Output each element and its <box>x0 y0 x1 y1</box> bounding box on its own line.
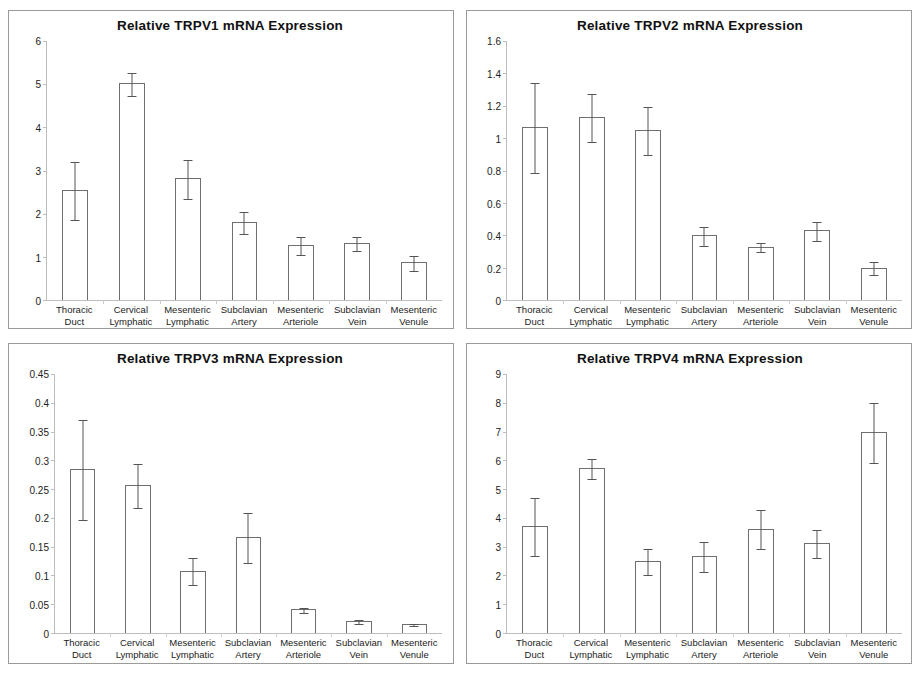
bar-slot <box>216 41 272 300</box>
y-tick-mark <box>503 518 507 519</box>
chart-panel-trpv2: Relative TRPV2 mRNA Expression 00.20.40.… <box>460 0 920 337</box>
x-tick-label: MesentericVenule <box>845 637 902 660</box>
x-tick-label: MesentericLymphatic <box>165 637 220 660</box>
plot-wrap: 0123456789 <box>468 368 912 634</box>
error-bar <box>188 160 189 199</box>
error-bar-cap-top <box>644 549 653 550</box>
error-bar-cap-top <box>410 624 419 625</box>
x-tick-label: ThoracicDuct <box>46 304 103 327</box>
error-bar-cap-bottom <box>355 624 364 625</box>
bar-slot <box>789 41 845 300</box>
error-bar-cap-bottom <box>299 613 308 614</box>
bar <box>236 537 261 633</box>
x-tick-label: MesentericLymphatic <box>159 304 216 327</box>
bar-slot <box>386 41 442 300</box>
y-tick-label: 1 <box>35 252 41 263</box>
bar-slot <box>733 41 789 300</box>
error-bar-cap-bottom <box>133 508 142 509</box>
bar <box>180 571 205 633</box>
error-bar-cap-top <box>299 608 308 609</box>
bar <box>861 268 887 300</box>
error-bar-cap-top <box>531 498 540 499</box>
x-tick-label: ThoracicDuct <box>506 304 563 327</box>
y-tick-mark <box>503 41 507 42</box>
error-bar-cap-top <box>409 256 418 257</box>
y-tick-label: 3 <box>35 166 41 177</box>
x-axis: ThoracicDuctCervicalLymphaticMesentericL… <box>8 301 452 327</box>
x-tick-label: SubclavianArtery <box>676 637 733 660</box>
bars-layer <box>507 374 902 633</box>
y-axis: 00.050.10.150.20.250.30.350.40.45 <box>12 374 54 634</box>
y-tick-mark <box>51 403 55 404</box>
chart-title: Relative TRPV2 mRNA Expression <box>468 18 912 33</box>
y-tick-mark <box>503 432 507 433</box>
y-tick-mark <box>51 547 55 548</box>
y-tick-label: 0 <box>35 296 41 307</box>
x-tick-label: SubclavianVein <box>331 637 386 660</box>
bar-slot <box>55 374 110 633</box>
error-bar-cap-bottom <box>71 220 80 221</box>
figure-panel-grid: Relative TRPV1 mRNA Expression 0123456 T… <box>0 0 920 674</box>
error-bar-cap-bottom <box>531 173 540 174</box>
y-tick-label: 0.05 <box>30 600 49 611</box>
error-bar-cap-top <box>244 513 253 514</box>
error-bar <box>591 94 592 142</box>
y-tick-mark <box>51 575 55 576</box>
x-tick-label: CervicalLymphatic <box>563 304 620 327</box>
error-bar <box>535 83 536 173</box>
x-tick-mark <box>387 633 388 637</box>
error-bar-cap-bottom <box>813 558 822 559</box>
x-tick-label: MesentericLymphatic <box>619 637 676 660</box>
x-tick-label: CervicalLymphatic <box>109 637 164 660</box>
y-tick-mark <box>43 214 47 215</box>
error-bar-cap-top <box>133 464 142 465</box>
error-bar-cap-bottom <box>531 556 540 557</box>
error-bar <box>704 227 705 246</box>
y-tick-mark <box>503 604 507 605</box>
y-tick-label: 2 <box>495 571 501 582</box>
error-bar-cap-top <box>869 262 878 263</box>
x-tick-mark <box>110 633 111 637</box>
x-tick-mark <box>221 633 222 637</box>
x-axis: ThoracicDuctCervicalLymphaticMesentericL… <box>468 634 912 660</box>
error-bar-cap-bottom <box>244 563 253 564</box>
bar <box>522 127 548 300</box>
y-axis: 0123456789 <box>472 374 506 634</box>
error-bar-cap-bottom <box>410 626 419 627</box>
error-bar-cap-top <box>531 83 540 84</box>
bar <box>288 245 314 300</box>
bar-slot <box>166 374 221 633</box>
y-tick-label: 0.4 <box>35 397 49 408</box>
error-bar-cap-bottom <box>184 199 193 200</box>
error-bar-cap-bottom <box>587 142 596 143</box>
error-bar <box>82 420 83 520</box>
y-tick-mark <box>503 138 507 139</box>
error-bar <box>535 498 536 557</box>
error-bar <box>413 256 414 270</box>
y-tick-mark <box>503 633 507 634</box>
error-bar <box>648 107 649 155</box>
error-bar-cap-bottom <box>127 96 136 97</box>
error-bar-cap-top <box>756 243 765 244</box>
plot-area <box>46 41 442 301</box>
y-tick-mark <box>51 604 55 605</box>
error-bar-cap-bottom <box>813 241 822 242</box>
x-tick-mark <box>676 300 677 304</box>
y-tick-mark <box>43 84 47 85</box>
x-tick-label: SubclavianArtery <box>216 304 273 327</box>
bar-slot <box>733 374 789 633</box>
bar <box>692 556 718 633</box>
x-tick-mark <box>331 633 332 637</box>
y-axis: 0123456 <box>12 41 46 301</box>
x-tick-mark <box>620 300 621 304</box>
error-bar <box>137 464 138 507</box>
bar <box>579 468 605 633</box>
error-bar-cap-bottom <box>700 246 709 247</box>
error-bar-cap-top <box>813 222 822 223</box>
x-tick-label: ThoracicDuct <box>54 637 109 660</box>
bar-slot <box>331 374 386 633</box>
error-bar <box>817 222 818 241</box>
y-tick-label: 6 <box>35 36 41 47</box>
bar <box>748 529 774 633</box>
x-tick-mark <box>563 633 564 637</box>
